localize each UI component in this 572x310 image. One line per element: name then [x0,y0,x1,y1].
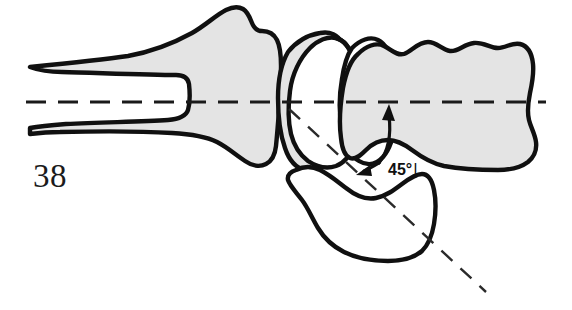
anatomical-figure: 38 45°| [0,0,572,310]
proximal-shaft-bone [30,7,281,165]
figure-illustration [0,0,572,310]
displaced-fragment [288,167,436,261]
angle-arrowhead-lower [356,165,372,176]
angle-value-text: 45° [388,161,412,178]
angle-annotation: 45°| [388,161,418,178]
angle-tick-mark: | [412,160,417,179]
figure-number: 38 [33,160,67,193]
